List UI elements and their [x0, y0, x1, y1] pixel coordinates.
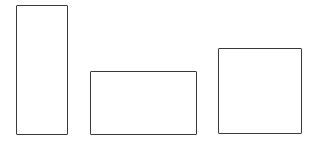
tall-rectangle	[16, 5, 68, 135]
diagram-canvas	[0, 0, 313, 142]
square-rectangle	[218, 48, 302, 134]
wide-rectangle	[90, 71, 197, 135]
